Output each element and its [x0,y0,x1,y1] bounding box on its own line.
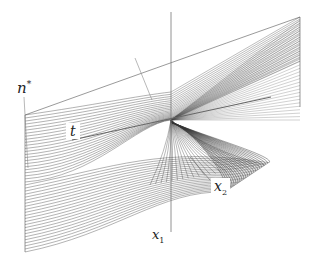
label-x1-sub: 1 [159,236,164,245]
label-x2: x2 [211,178,230,198]
label-x2-sub: 2 [222,188,227,197]
label-n-star-sup: * [27,79,32,89]
cusp-lobe-lines [150,120,270,192]
label-t-base: t [70,123,76,139]
normal-pointer-top [135,58,152,100]
label-t: t [66,123,80,139]
tangent-line [72,97,271,140]
label-n-star: n* [15,80,33,96]
label-n-star-base: n [17,79,27,97]
label-x2-base: x [214,178,222,194]
label-x1: x1 [150,228,166,245]
ruled-surface-diagram [0,0,314,265]
